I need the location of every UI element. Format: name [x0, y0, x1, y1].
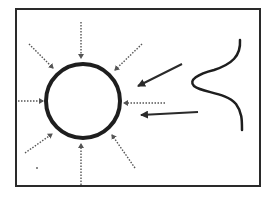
diagram-canvas	[0, 0, 272, 198]
solid-arrows-group	[138, 64, 198, 115]
frame-border	[16, 9, 260, 186]
central-circle	[46, 64, 120, 138]
diagram-svg	[0, 0, 272, 198]
dotted-arrows-group	[18, 22, 165, 185]
solid-arrow-upper	[138, 64, 182, 86]
peak-curve	[192, 40, 242, 130]
dotted-arrow-bottom-left	[25, 134, 52, 153]
solid-arrow-lower	[141, 112, 198, 115]
small-dot	[36, 167, 38, 169]
dotted-arrow-top-left	[29, 44, 53, 68]
dotted-arrow-bottom-right	[112, 135, 135, 168]
dotted-arrow-top-right	[115, 44, 142, 70]
